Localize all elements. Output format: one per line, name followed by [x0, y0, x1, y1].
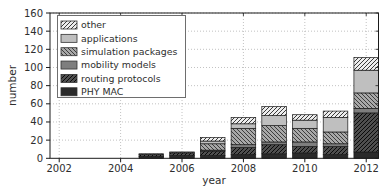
bar-2012-phy-mac: [354, 152, 379, 158]
legend-layer: otherapplicationssimulation packagesmobi…: [58, 16, 186, 98]
legend-swatch: [61, 74, 77, 82]
bar-2008-simulation-packages: [231, 128, 256, 144]
legend-entry-applications: applications: [61, 33, 138, 44]
bar-2012-routing-protocols: [354, 113, 379, 152]
legend-label: applications: [81, 33, 138, 44]
y-tick-label: 40: [30, 116, 43, 127]
legend-entry-mobility-models: mobility models: [61, 59, 156, 70]
bar-2005-simulation-packages: [139, 154, 164, 155]
y-tick-label: 0: [37, 153, 43, 164]
bar-2009-routing-protocols: [262, 145, 287, 154]
legend-entry-other: other: [61, 19, 106, 30]
x-tick-label: 2012: [353, 163, 378, 174]
legend-entry-phy-mac: PHY MAC: [61, 86, 124, 97]
bar-2007-other: [200, 137, 225, 141]
y-tick-label: 80: [30, 80, 43, 91]
x-tick-label: 2008: [231, 163, 256, 174]
bar-2011-other: [323, 111, 348, 117]
bar-2008-applications: [231, 124, 256, 129]
x-tick-label: 2010: [292, 163, 317, 174]
bar-2009-phy-mac: [262, 154, 287, 159]
bar-2008-other: [231, 117, 256, 123]
bar-2009-mobility-models: [262, 142, 287, 145]
bar-2006-simulation-packages: [170, 152, 195, 153]
y-tick-label: 100: [24, 62, 43, 73]
bar-2008-phy-mac: [231, 155, 256, 159]
x-tick-label: 2004: [108, 163, 133, 174]
x-axis-label: year: [202, 174, 226, 186]
bar-2011-applications: [323, 117, 348, 132]
bar-2012-applications: [354, 70, 379, 93]
y-tick-label: 60: [30, 98, 43, 109]
chart-svg: 0204060801001201401602002200420062008201…: [0, 0, 389, 190]
bar-2006-routing-protocols: [170, 153, 195, 156]
legend-label: routing protocols: [81, 73, 161, 84]
bar-2010-routing-protocols: [293, 146, 318, 152]
legend-label: PHY MAC: [81, 86, 124, 97]
bar-2012-mobility-models: [354, 108, 379, 113]
x-tick-label: 2002: [46, 163, 71, 174]
bar-2007-routing-protocols: [200, 151, 225, 156]
bar-2010-other: [293, 115, 318, 120]
y-axis-label: number: [6, 64, 18, 106]
legend-swatch: [61, 48, 77, 56]
legend-label: mobility models: [81, 59, 156, 70]
x-tick-label: 2006: [169, 163, 194, 174]
legend-swatch: [61, 88, 77, 96]
legend-entry-routing-protocols: routing protocols: [61, 73, 161, 84]
bar-2010-phy-mac: [293, 153, 318, 158]
bar-2008-routing-protocols: [231, 147, 256, 154]
bar-2009-simulation-packages: [262, 126, 287, 142]
bar-2009-other: [262, 107, 287, 116]
legend-label: simulation packages: [81, 46, 177, 57]
bar-2012-simulation-packages: [354, 93, 379, 108]
bar-2010-mobility-models: [293, 142, 318, 147]
bar-2010-simulation-packages: [293, 128, 318, 142]
bar-2011-phy-mac: [323, 155, 348, 159]
y-tick-label: 160: [24, 8, 43, 19]
y-tick-label: 140: [24, 26, 43, 37]
bar-2007-simulation-packages: [200, 144, 225, 150]
bar-2009-applications: [262, 116, 287, 126]
bar-2007-applications: [200, 141, 225, 144]
bar-2010-applications: [293, 120, 318, 128]
legend-swatch: [61, 21, 77, 29]
bar-2011-mobility-models: [323, 144, 348, 147]
y-tick-label: 20: [30, 135, 43, 146]
stacked-bar-chart-figure: 0204060801001201401602002200420062008201…: [0, 0, 389, 190]
bar-2008-mobility-models: [231, 145, 256, 148]
legend-swatch: [61, 61, 77, 69]
legend-swatch: [61, 34, 77, 42]
legend-label: other: [81, 19, 106, 30]
bar-2012-other: [354, 57, 379, 70]
bar-2011-routing-protocols: [323, 146, 348, 154]
y-tick-label: 120: [24, 44, 43, 55]
bar-2011-simulation-packages: [323, 132, 348, 144]
